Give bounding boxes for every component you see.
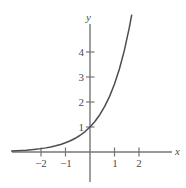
y-axis-label: y [86,12,91,23]
y-tick-label-4: 4 [76,47,84,58]
x-tick-label-neg2: −2 [35,158,47,169]
y-tick-label-1: 1 [76,122,84,133]
y-tick-label-2: 2 [76,97,84,108]
x-tick-label-pos2: 2 [136,158,142,169]
x-tick-label-neg1: −1 [60,158,72,169]
y-tick-label-3: 3 [76,72,84,83]
plot-canvas [0,0,186,188]
exponential-curve [12,15,132,151]
exponential-function-graph: −2 −1 1 2 1 2 3 4 y x [0,0,186,188]
x-tick-label-pos1: 1 [112,158,118,169]
x-axis-label: x [175,146,180,157]
